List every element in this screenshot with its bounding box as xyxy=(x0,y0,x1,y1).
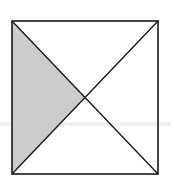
square-diagram xyxy=(0,0,171,190)
shaded-left-triangle xyxy=(12,21,85,174)
